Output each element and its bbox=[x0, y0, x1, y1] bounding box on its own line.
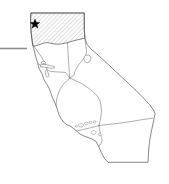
island-shape bbox=[91, 131, 96, 135]
island-shape bbox=[79, 124, 84, 127]
island-shape bbox=[93, 121, 96, 123]
island-shape bbox=[98, 133, 101, 135]
island-shape bbox=[75, 125, 77, 127]
island-shape bbox=[84, 122, 88, 125]
island-shape bbox=[89, 121, 92, 123]
lake-icon bbox=[84, 55, 91, 63]
bay-feature bbox=[41, 62, 45, 64]
california-locator-map bbox=[0, 0, 169, 184]
map-canvas bbox=[0, 0, 169, 184]
